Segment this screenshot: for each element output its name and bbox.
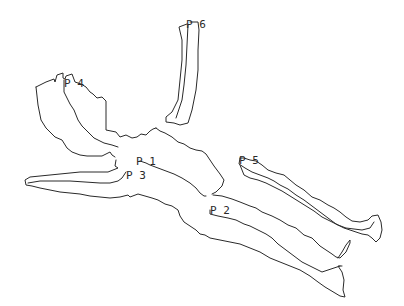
passage-main-outline — [25, 128, 350, 297]
label-p6: P 6 — [186, 19, 206, 30]
passage-p5-outline — [239, 158, 382, 242]
passage-p4-outline — [36, 73, 156, 157]
label-p2: P 2 — [210, 205, 230, 216]
cave-map — [0, 0, 404, 306]
passage-p6-outline — [166, 22, 199, 125]
label-p3: P 3 — [126, 170, 146, 181]
label-p4: P 4 — [64, 78, 84, 89]
label-p1: P 1 — [136, 156, 156, 167]
label-p5: P 5 — [239, 155, 259, 166]
